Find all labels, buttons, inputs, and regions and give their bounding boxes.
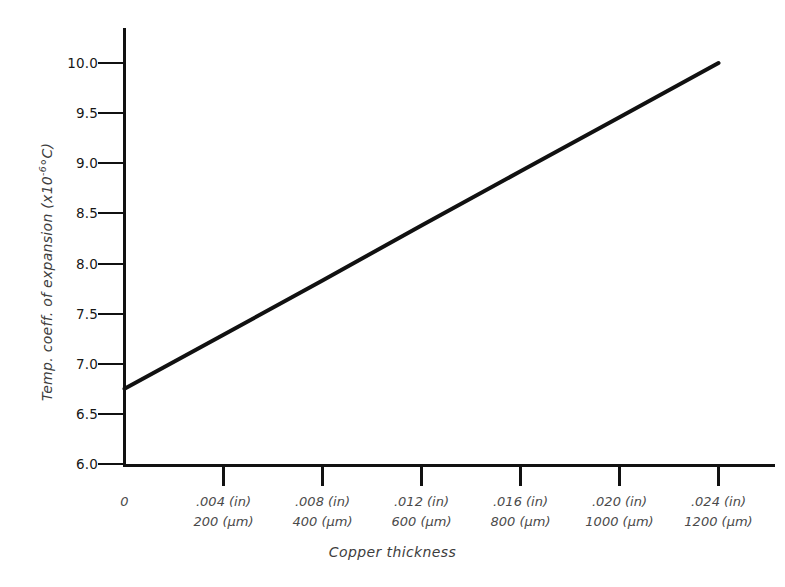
x-axis-tick-label-microns: 1200 (µm) — [654, 512, 784, 532]
y-axis-tick-mark — [98, 413, 125, 415]
y-axis-tick-mark — [98, 263, 125, 265]
y-axis-tick-label-wrap: 7.0 — [52, 355, 98, 373]
y-axis-tick-label: 7.5 — [52, 305, 98, 323]
y-axis-tick-label: 7.0 — [52, 355, 98, 373]
y-axis-tick-label-wrap: 9.5 — [52, 104, 98, 122]
y-axis-tick-mark — [98, 112, 125, 114]
y-axis-line — [123, 28, 126, 466]
x-axis-line — [123, 464, 775, 467]
y-axis-tick-mark — [98, 463, 125, 465]
x-axis-tick-mark — [717, 466, 720, 486]
y-axis-title-exponent: -6 — [37, 166, 48, 176]
y-axis-tick-label-wrap: 7.5 — [52, 305, 98, 323]
x-axis-tick-mark — [321, 466, 324, 486]
y-axis-tick-label: 8.0 — [52, 255, 98, 273]
y-axis-tick-label: 10.0 — [52, 54, 98, 72]
y-axis-tick-label: 6.5 — [52, 405, 98, 423]
y-axis-tick-label: 9.5 — [52, 104, 98, 122]
y-axis-tick-label-wrap: 8.0 — [52, 255, 98, 273]
y-axis-tick-label: 9.0 — [52, 154, 98, 172]
x-axis-tick-mark — [519, 466, 522, 486]
y-axis-tick-mark — [98, 363, 125, 365]
x-axis-title: Copper thickness — [0, 544, 785, 560]
y-axis-tick-mark — [98, 313, 125, 315]
x-axis-tick-mark — [618, 466, 621, 486]
data-series-line — [125, 63, 719, 389]
chart-figure: Temp. coeff. of expansion (x10-6°C) 10.0… — [0, 0, 785, 587]
y-axis-tick-label-wrap: 10.0 — [52, 54, 98, 72]
y-axis-tick-label-wrap: 6.5 — [52, 405, 98, 423]
x-axis-tick-label-inches: .024 (in) — [654, 492, 784, 512]
y-axis-tick-mark — [98, 212, 125, 214]
x-axis-tick-mark — [222, 466, 225, 486]
y-axis-tick-mark — [98, 62, 125, 64]
y-axis-tick-mark — [98, 162, 125, 164]
y-axis-tick-label: 6.0 — [52, 455, 98, 473]
x-axis-tick-label: .024 (in)1200 (µm) — [654, 492, 784, 532]
y-axis-tick-label-wrap: 6.0 — [52, 455, 98, 473]
x-axis-tick-mark — [420, 466, 423, 486]
y-axis-tick-label-wrap: 8.5 — [52, 204, 98, 222]
y-axis-tick-label: 8.5 — [52, 204, 98, 222]
y-axis-tick-label-wrap: 9.0 — [52, 154, 98, 172]
